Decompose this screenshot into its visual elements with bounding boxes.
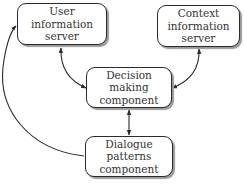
edge-context-decision (172, 49, 199, 88)
decision-making-component-label: Decision making component (99, 69, 158, 107)
context-information-server-node: Context information server (157, 5, 240, 47)
user-information-server-label: User information server (31, 5, 93, 43)
user-information-server-node: User information server (17, 3, 107, 45)
edge-dialogue-user (3, 26, 84, 156)
dialogue-patterns-component-node: Dialogue patterns component (85, 136, 173, 177)
edge-user-decision (61, 48, 86, 88)
context-information-server-label: Context information server (167, 7, 229, 45)
decision-making-component-node: Decision making component (86, 67, 172, 108)
dialogue-patterns-component-label: Dialogue patterns component (99, 138, 158, 176)
system-architecture-diagram: User information server Context informat… (0, 0, 244, 184)
